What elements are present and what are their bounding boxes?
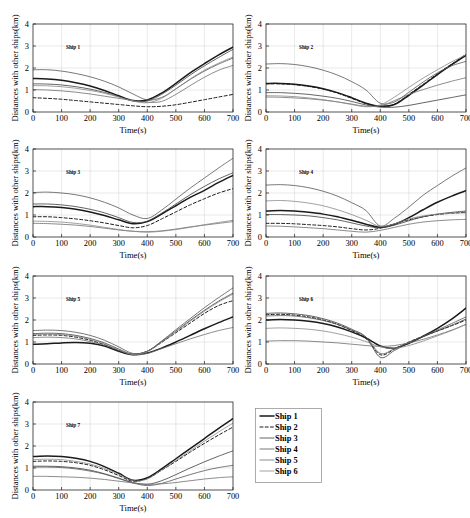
curve-ship-6 [266,55,466,107]
x-tick-label: 300 [345,114,358,123]
panel-title: Ship 4 [299,169,313,175]
curve-ship-3 [266,211,466,228]
x-tick-label: 100 [288,366,301,375]
y-tick-label: 3 [25,294,29,303]
panel-title: Ship 1 [66,44,80,50]
x-tick-label: 600 [198,492,211,501]
panel-title: Ship 7 [66,422,80,428]
y-tick-label: 2 [258,316,262,325]
figure-legend: Ship 1Ship 2Ship 3Ship 4Ship 5Ship 6 [255,408,323,484]
y-tick-label: 0 [258,360,262,369]
y-tick-label: 2 [25,189,29,198]
x-tick-label: 100 [55,366,68,375]
curve-ship-1 [33,47,233,101]
panel-ship-5: 010020030040050060070001234Time(s)Distan… [4,262,237,390]
x-tick-label: 600 [431,114,444,123]
legend-label-ship-1: Ship 1 [275,412,298,421]
y-tick-label: 0 [25,486,29,495]
x-tick-label: 700 [227,492,240,501]
panel-ship-7: 010020030040050060070001234Time(s)Distan… [4,388,237,516]
y-tick-label: 1 [25,86,29,95]
x-tick-label: 500 [170,492,183,501]
x-tick-label: 700 [460,366,470,375]
curve-ship-5 [33,327,233,354]
x-tick-label: 200 [317,366,330,375]
x-tick-label: 100 [55,239,68,248]
x-tick-label: 600 [198,239,211,248]
legend-label-ship-3: Ship 3 [275,434,298,443]
y-tick-label: 4 [25,20,30,29]
y-tick-label: 2 [25,442,29,451]
y-tick-label: 1 [25,464,29,473]
y-tick-label: 2 [25,64,29,73]
x-tick-label: 500 [403,366,416,375]
x-tick-label: 600 [431,239,444,248]
y-tick-label: 1 [25,211,29,220]
curve-ship-4 [266,316,466,354]
curve-ship-5 [266,78,466,107]
y-tick-label: 4 [25,145,30,154]
curve-ship-6 [33,423,233,481]
x-tick-label: 400 [141,366,154,375]
curve-ship-3 [266,93,466,108]
curve-ship-6 [266,324,466,348]
y-tick-label: 4 [25,272,30,281]
y-tick-label: 1 [258,86,262,95]
panel-ship-6: 010020030040050060070001234Time(s)Distan… [237,262,470,390]
y-tick-label: 0 [25,108,29,117]
x-tick-label: 500 [170,239,183,248]
y-axis-label: Distances with other ships(km) [10,139,20,246]
y-axis-label: Distances with other ships(km) [10,266,20,373]
y-tick-label: 4 [258,145,263,154]
y-tick-label: 0 [25,233,29,242]
curve-ship-6 [266,200,466,226]
y-tick-label: 1 [258,211,262,220]
x-tick-label: 700 [460,239,470,248]
x-tick-label: 0 [31,114,35,123]
legend-label-ship-4: Ship 4 [275,445,298,454]
x-tick-label: 0 [31,239,35,248]
legend-label-ship-2: Ship 2 [275,423,298,432]
x-tick-label: 200 [317,114,330,123]
x-tick-label: 600 [198,114,211,123]
x-tick-label: 0 [264,239,268,248]
panel-title: Ship 6 [299,296,313,302]
y-axis-label: Distances with other ships(km) [243,139,253,246]
x-tick-label: 200 [317,239,330,248]
x-tick-label: 400 [141,492,154,501]
curve-ship-2 [266,54,466,106]
x-tick-label: 0 [264,114,268,123]
x-tick-label: 100 [288,114,301,123]
x-axis-label: Time(s) [120,125,147,135]
legend-label-ship-5: Ship 5 [275,456,298,465]
x-tick-label: 500 [403,239,416,248]
x-tick-label: 300 [112,239,125,248]
curve-ship-1 [33,317,233,355]
x-tick-label: 400 [374,366,387,375]
x-tick-label: 300 [112,492,125,501]
y-axis-label: Distances with other ships(km) [243,14,253,121]
x-tick-label: 100 [288,239,301,248]
y-tick-label: 3 [258,42,262,51]
x-tick-label: 300 [345,239,358,248]
y-tick-label: 1 [25,338,29,347]
panel-title: Ship 3 [66,169,80,175]
curve-ship-5 [266,324,466,346]
curve-ship-4 [33,288,233,354]
x-tick-label: 300 [345,366,358,375]
curve-ship-1 [266,55,466,106]
x-axis-label: Time(s) [120,503,147,513]
x-tick-label: 400 [141,239,154,248]
x-tick-label: 300 [112,114,125,123]
x-tick-label: 400 [374,114,387,123]
x-tick-label: 400 [374,239,387,248]
x-tick-label: 600 [198,366,211,375]
x-axis-label: Time(s) [353,377,380,387]
panel-ship-2: 010020030040050060070001234Time(s)Distan… [237,10,470,138]
x-tick-label: 600 [431,366,444,375]
y-tick-label: 1 [258,338,262,347]
x-axis-label: Time(s) [353,250,380,260]
y-tick-label: 4 [25,398,30,407]
x-tick-label: 700 [460,114,470,123]
